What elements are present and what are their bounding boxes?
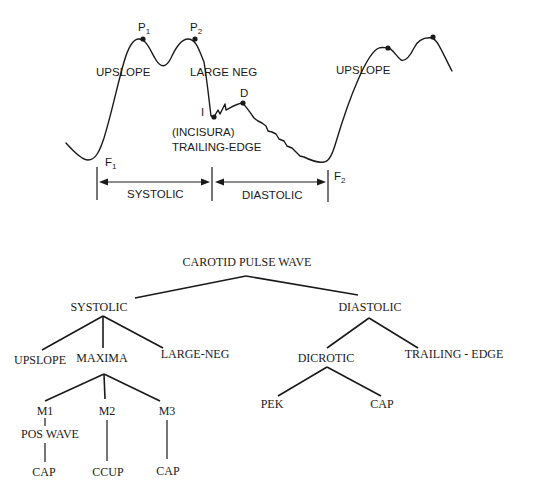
label-dicrotic-point: D — [240, 87, 248, 99]
diastolic-arrow-right-head — [317, 179, 326, 186]
label-upslope-right: UPSLOPE — [336, 64, 391, 76]
edge-maxima-m1 — [45, 374, 104, 401]
label-f2: F2 — [334, 170, 346, 185]
p1-peak-dot — [140, 36, 145, 41]
phase-markers: SYSTOLIC DIASTOLIC — [97, 167, 328, 202]
tree-diastolic: DIASTOLIC — [338, 300, 401, 314]
systolic-arrow-left-head — [99, 179, 108, 186]
edge-diastolic-trailing-edge — [369, 318, 418, 348]
label-incisura-point: I — [201, 106, 204, 118]
edge-dicrotic-cap — [327, 367, 381, 396]
tree-m3-cap: CAP — [156, 464, 180, 478]
right-p2-dot — [430, 34, 435, 39]
tree-pek: PEK — [261, 397, 284, 411]
label-trailing-edge: TRAILING-EDGE — [172, 141, 262, 153]
edge-systolic-large-neg — [103, 316, 163, 348]
tree-trailing-edge: TRAILING - EDGE — [405, 347, 504, 361]
incisura-dot — [211, 114, 216, 119]
dicrotic-dot — [240, 100, 245, 105]
edge-diastolic-dicrotic — [327, 318, 369, 348]
label-upslope-left: UPSLOPE — [96, 66, 151, 78]
edge-dicrotic-pek — [278, 367, 327, 396]
label-p1: P1 — [138, 21, 151, 36]
label-diastolic-phase: DIASTOLIC — [242, 189, 303, 201]
tree-dicrotic-cap: CAP — [370, 397, 394, 411]
tree-systolic: SYSTOLIC — [70, 300, 127, 314]
tree-upslope: UPSLOPE — [14, 353, 66, 367]
classification-tree: CAROTID PULSE WAVE SYSTOLIC UPSLOPE MAXI… — [14, 255, 503, 479]
label-p2: P2 — [190, 21, 203, 36]
tree-m1-cap: CAP — [32, 465, 56, 479]
tree-m3: M3 — [159, 404, 176, 418]
tree-dicrotic: DICROTIC — [298, 351, 355, 365]
tree-m1: M1 — [37, 404, 54, 418]
edge-maxima-m2 — [104, 374, 105, 399]
systolic-arrow-right-head — [201, 179, 210, 186]
tree-m2: M2 — [99, 404, 116, 418]
edge-systolic-upslope — [42, 316, 103, 350]
label-systolic-phase: SYSTOLIC — [127, 188, 184, 200]
tree-root: CAROTID PULSE WAVE — [183, 255, 312, 269]
label-large-neg: LARGE NEG — [190, 66, 257, 78]
diastolic-arrow-left-head — [215, 179, 224, 186]
edge-root-systolic — [135, 276, 246, 298]
label-f1: F1 — [105, 156, 117, 171]
tree-maxima: MAXIMA — [76, 351, 128, 365]
edge-root-diastolic — [246, 276, 358, 295]
tree-large-neg: LARGE-NEG — [161, 347, 230, 361]
carotid-pulse-diagram: P1 P2 UPSLOPE LARGE NEG I D (INCISURA) T… — [0, 0, 535, 498]
pulse-waveform: P1 P2 UPSLOPE LARGE NEG I D (INCISURA) T… — [66, 21, 452, 185]
edge-maxima-m3 — [104, 374, 160, 401]
right-p1-dot — [385, 45, 390, 50]
label-incisura: (INCISURA) — [172, 126, 235, 138]
tree-m2-ccup: CCUP — [92, 465, 124, 479]
tree-pos-wave: POS WAVE — [21, 427, 79, 441]
p2-peak-dot — [192, 36, 197, 41]
